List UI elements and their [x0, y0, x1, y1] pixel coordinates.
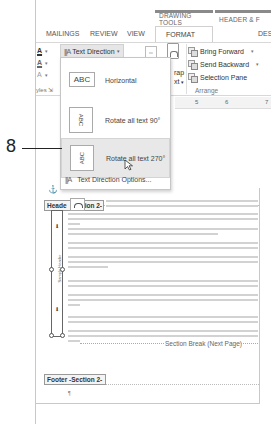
wrap-text-button[interactable]: rapxt ▾: [174, 68, 184, 87]
tab-mailings[interactable]: MAILINGS: [46, 26, 79, 42]
chevron-down-icon: ▾: [45, 48, 48, 54]
dialog-launcher-icon[interactable]: ⇲: [48, 87, 53, 93]
selection-pane-label: Selection Pane: [200, 74, 247, 81]
rotate-90-thumb-icon: ABC: [69, 107, 93, 133]
footer-section-label: Footer -Section 2-: [44, 374, 106, 385]
body-paragraph: [68, 213, 258, 228]
bring-forward-button[interactable]: Bring Forward▾: [188, 47, 254, 55]
text-direction-options[interactable]: |||A Text Direction Options...: [65, 176, 151, 183]
send-backward-button[interactable]: Send Backward▾: [188, 60, 259, 68]
rotate-270-thumb-icon: ABC: [70, 145, 94, 171]
chevron-down-icon: ▾: [45, 72, 48, 78]
menu-item-label: Rotate all text 270°: [106, 155, 165, 162]
body-paragraph: [68, 294, 258, 309]
text-effects-button[interactable]: A▾: [37, 71, 48, 78]
callout-line: [22, 148, 62, 149]
layout-options-icon[interactable]: [70, 198, 85, 211]
font-color-icon: A: [37, 47, 42, 54]
arrange-group-label: Arrange: [195, 87, 218, 94]
contextual-tab-drawing-tools: DRAWING TOOLS: [155, 10, 213, 25]
menu-item-rotate-270[interactable]: ABC Rotate all text 270°: [61, 138, 170, 178]
send-backward-icon: [188, 60, 197, 68]
ruler-tick: 5: [195, 99, 198, 105]
resize-handle[interactable]: [60, 333, 65, 338]
highlight-button[interactable]: A▾: [37, 59, 48, 66]
menu-item-rotate-90[interactable]: ABC Rotate all text 90°: [61, 100, 170, 140]
arrow-down-icon: ⬇: [55, 223, 59, 229]
header-label-left: Heade: [47, 202, 67, 209]
body-paragraph: [68, 280, 258, 290]
styles-group-label: yles ⇲: [36, 86, 53, 93]
resize-handle[interactable]: [49, 333, 54, 338]
body-paragraph: [68, 228, 258, 238]
align-text-icon: ▭: [149, 50, 153, 55]
text-direction-button[interactable]: |||A Text Direction ▾: [60, 44, 124, 58]
contextual-tab-header-footer: HEADER & F: [215, 10, 271, 25]
tab-review[interactable]: REVIEW: [90, 26, 118, 42]
ruler-tick: 6: [225, 99, 228, 105]
section-break-label: Section Break (Next Page): [165, 340, 242, 347]
body-paragraph: [68, 256, 258, 271]
resize-handle[interactable]: [60, 267, 65, 272]
group-separator: [186, 44, 187, 94]
options-label: Text Direction Options...: [77, 176, 151, 183]
ribbon-tabs: MAILINGS REVIEW VIEW FORMAT DES: [36, 26, 271, 42]
text-direction-icon: |||A: [64, 48, 70, 55]
bring-forward-icon: [188, 47, 197, 55]
paragraph-mark: ¶: [68, 390, 71, 396]
tab-format[interactable]: FORMAT: [155, 26, 213, 42]
callout-number: 8: [6, 136, 16, 157]
ruler-tick: 7: [265, 99, 268, 105]
tab-design[interactable]: DES: [258, 26, 271, 42]
wrap-label-1: rap: [174, 68, 184, 77]
vertical-text-box[interactable]: ⬇ Sample Header ⬇: [51, 210, 63, 337]
horizontal-thumb-icon: ABC: [69, 72, 95, 87]
drawing-tools-label: DRAWING TOOLS: [159, 12, 213, 26]
horizontal-ruler[interactable]: 5 6 7: [175, 97, 271, 109]
arrow-down-icon: ⬇: [55, 306, 59, 312]
font-color-button[interactable]: A▾: [37, 47, 48, 54]
body-paragraph: [106, 200, 258, 210]
header-footer-label: HEADER & F: [219, 16, 260, 23]
text-direction-menu: ABC Horizontal ABC Rotate all text 90° A…: [60, 57, 171, 190]
wrap-label-2: xt ▾: [174, 77, 184, 87]
footer-boundary: [106, 384, 259, 385]
text-effects-icon: A: [37, 71, 42, 78]
mouse-cursor-icon: [124, 159, 134, 171]
tab-view[interactable]: VIEW: [127, 26, 145, 42]
chevron-down-icon: ▾: [45, 60, 48, 66]
selection-pane-button[interactable]: Selection Pane: [188, 73, 247, 81]
menu-item-horizontal[interactable]: ABC Horizontal: [61, 60, 170, 100]
send-backward-label: Send Backward: [200, 61, 249, 68]
header-label-right: tion 2-: [83, 202, 103, 209]
section-break-line: [80, 343, 164, 344]
chevron-down-icon: ▾: [251, 48, 254, 54]
text-direction-icon: |||A: [65, 176, 71, 183]
body-paragraph: [68, 316, 258, 326]
styles-label-text: yles: [36, 87, 47, 93]
menu-item-label: Horizontal: [105, 77, 137, 84]
menu-item-label: Rotate all text 90°: [105, 117, 160, 124]
text-direction-label: Text Direction: [72, 48, 114, 55]
chevron-down-icon: ▾: [256, 61, 259, 67]
body-paragraph: [68, 242, 258, 252]
bring-forward-label: Bring Forward: [200, 48, 244, 55]
resize-handle[interactable]: [49, 267, 54, 272]
selection-pane-icon: [188, 73, 197, 81]
section-break-line: [236, 343, 258, 344]
chevron-down-icon: ▾: [117, 48, 120, 54]
highlight-icon: A: [37, 59, 42, 66]
anchor-icon: ⚓: [48, 185, 58, 194]
